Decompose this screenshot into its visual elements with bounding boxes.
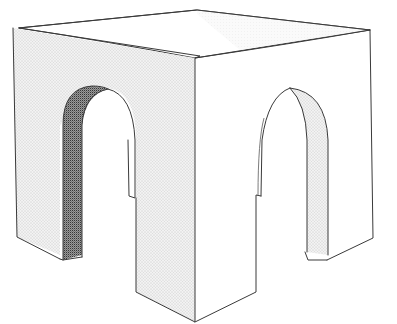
left-arch-reveal: [60, 86, 108, 260]
cube-arch-illustration: Cubic pavilion with an arched opening on…: [0, 0, 397, 324]
drawing-canvas: [0, 0, 397, 324]
right-arch-reveal: [258, 88, 328, 260]
left-face: [13, 28, 195, 322]
right-face: [195, 30, 373, 322]
